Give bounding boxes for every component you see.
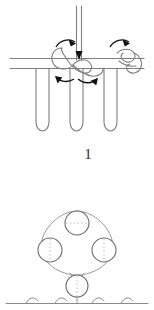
loop-2: [70, 69, 83, 132]
hanging-loops: [36, 69, 117, 132]
loop-3: [104, 69, 117, 132]
bead-ring-svg: [0, 185, 154, 310]
bead-ring-diagram: [0, 185, 154, 310]
arrow-lower-right: [91, 78, 98, 85]
rotation-arrows: [55, 39, 130, 85]
thread-knot-right: [117, 49, 142, 73]
stitch-knot-diagram: [0, 0, 154, 145]
figure-number-text: 1: [62, 145, 92, 163]
arrow-lower-left: [55, 76, 62, 83]
figure-number: 1: [0, 145, 154, 163]
loop-1: [36, 69, 49, 132]
diagram-page: 1: [0, 0, 154, 310]
stitch-knot-svg: [0, 0, 154, 145]
anchor-bead: [66, 275, 88, 297]
